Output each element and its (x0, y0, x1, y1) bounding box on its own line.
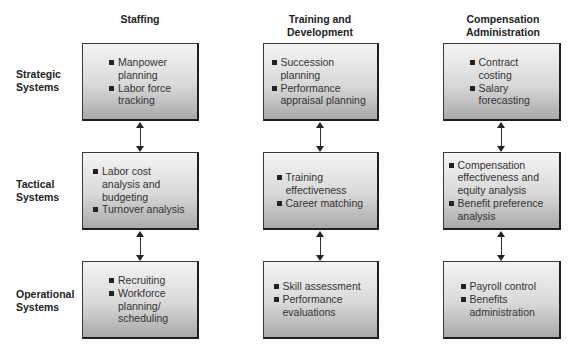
list-item: Salary forecasting (469, 82, 535, 108)
list-item: Skill assessment (273, 280, 369, 293)
list-item: Performance appraisal planning (271, 82, 371, 108)
column-header-line: Compensation (445, 13, 561, 26)
item-list: Training effectiveness Career matching (276, 171, 366, 209)
box-training-operational: Skill assessment Performance evaluations (263, 261, 379, 339)
list-item: Recruiting (108, 274, 172, 287)
item-list: Recruiting Workforce planning/ schedulin… (108, 274, 172, 325)
column-header-training: Training and Development (270, 13, 370, 39)
box-training-tactical: Training effectiveness Career matching (263, 152, 379, 230)
item-list: Contract costing Salary forecasting (469, 56, 535, 107)
column-header-line: Administration (445, 26, 561, 39)
box-staffing-tactical: Labor cost analysis and budgeting Turnov… (82, 152, 199, 230)
row-label-line: Systems (16, 81, 61, 94)
row-label-tactical: Tactical Systems (16, 178, 59, 204)
row-label-line: Tactical (16, 178, 59, 191)
list-item: Training effectiveness (276, 171, 356, 197)
list-item: Labor cost analysis and budgeting (92, 165, 188, 203)
item-list: Skill assessment Performance evaluations (273, 280, 369, 318)
box-training-strategic: Succession planning Performance appraisa… (263, 43, 379, 121)
item-list: Labor cost analysis and budgeting Turnov… (92, 165, 188, 216)
box-staffing-operational: Recruiting Workforce planning/ schedulin… (82, 261, 199, 339)
row-label-line: Systems (16, 191, 59, 204)
column-header-staffing: Staffing (100, 13, 180, 26)
list-item: Turnover analysis (92, 203, 188, 216)
row-label-operational: Operational Systems (16, 288, 74, 314)
row-label-line: Systems (16, 301, 74, 314)
column-header-line: Staffing (100, 13, 180, 26)
list-item: Labor force tracking (108, 82, 172, 108)
list-item: Benefit preference analysis (448, 197, 556, 223)
double-arrow-icon (316, 231, 325, 261)
list-item: Compensation effectiveness and equity an… (448, 159, 556, 197)
box-compensation-tactical: Compensation effectiveness and equity an… (443, 152, 561, 230)
item-list: Succession planning Performance appraisa… (271, 56, 371, 107)
box-compensation-strategic: Contract costing Salary forecasting (443, 43, 561, 121)
list-item: Benefits administration (460, 293, 544, 319)
double-arrow-icon (497, 231, 506, 261)
column-header-line: Development (270, 26, 370, 39)
box-staffing-strategic: Manpower planning Labor force tracking (82, 43, 199, 121)
list-item: Succession planning (271, 56, 345, 82)
box-compensation-operational: Payroll control Benefits administration (443, 261, 561, 339)
item-list: Manpower planning Labor force tracking (108, 56, 172, 107)
list-item: Payroll control (460, 280, 544, 293)
list-item: Manpower planning (108, 56, 172, 82)
double-arrow-icon (316, 122, 325, 152)
column-header-line: Training and (270, 13, 370, 26)
double-arrow-icon (497, 122, 506, 152)
row-label-line: Operational (16, 288, 74, 301)
double-arrow-icon (136, 122, 145, 152)
item-list: Compensation effectiveness and equity an… (448, 159, 556, 223)
list-item: Contract costing (469, 56, 535, 82)
row-label-line: Strategic (16, 68, 61, 81)
column-header-compensation: Compensation Administration (445, 13, 561, 39)
list-item: Workforce planning/ scheduling (108, 287, 172, 325)
list-item: Career matching (276, 197, 366, 210)
row-label-strategic: Strategic Systems (16, 68, 61, 94)
double-arrow-icon (136, 231, 145, 261)
item-list: Payroll control Benefits administration (460, 280, 544, 318)
list-item: Performance evaluations (273, 293, 349, 319)
